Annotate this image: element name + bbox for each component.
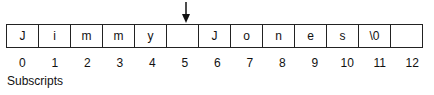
subscript-index: 12 bbox=[396, 56, 429, 70]
subscript-index: 6 bbox=[201, 56, 234, 70]
subscript-index: 9 bbox=[299, 56, 332, 70]
char-array: J i m m y J o n e s \0 bbox=[6, 24, 423, 48]
subscript-row: 0 1 2 3 4 5 6 7 8 9 10 11 12 bbox=[6, 56, 429, 70]
array-cell: i bbox=[39, 25, 71, 47]
subscript-index: 4 bbox=[136, 56, 169, 70]
array-cell: J bbox=[199, 25, 231, 47]
array-cell: m bbox=[103, 25, 135, 47]
subscripts-label: Subscripts bbox=[7, 74, 63, 88]
down-arrow-icon bbox=[180, 2, 192, 24]
subscript-index: 11 bbox=[364, 56, 397, 70]
subscript-index: 10 bbox=[331, 56, 364, 70]
subscript-index: 1 bbox=[39, 56, 72, 70]
array-cell: s bbox=[327, 25, 359, 47]
array-cell: n bbox=[263, 25, 295, 47]
subscript-index: 7 bbox=[234, 56, 267, 70]
subscript-index: 2 bbox=[71, 56, 104, 70]
array-cell bbox=[167, 25, 199, 47]
array-cell: m bbox=[71, 25, 103, 47]
array-cell bbox=[391, 25, 423, 47]
array-cell: y bbox=[135, 25, 167, 47]
array-cell: J bbox=[7, 25, 39, 47]
subscript-index: 8 bbox=[266, 56, 299, 70]
array-cell: e bbox=[295, 25, 327, 47]
subscript-index: 5 bbox=[169, 56, 202, 70]
array-cell: \0 bbox=[359, 25, 391, 47]
subscript-index: 0 bbox=[6, 56, 39, 70]
subscript-index: 3 bbox=[104, 56, 137, 70]
array-cell: o bbox=[231, 25, 263, 47]
